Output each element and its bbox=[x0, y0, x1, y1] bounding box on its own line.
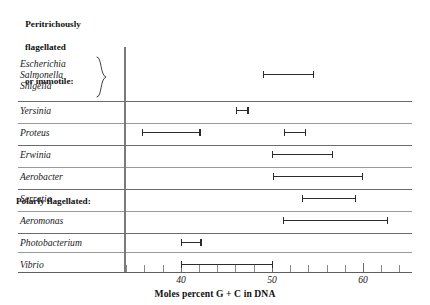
range-bar-aeromonas bbox=[283, 220, 387, 221]
range-bar-vibrio bbox=[181, 264, 272, 265]
range-cap-proteus-min bbox=[142, 129, 143, 136]
taxon-label-escherichia: Escherichia bbox=[20, 58, 66, 69]
vertical-axis-line bbox=[124, 47, 126, 273]
range-cap-proteus-min bbox=[284, 129, 285, 136]
axis-tick-major-60 bbox=[363, 263, 364, 272]
taxon-label-vibrio: Vibrio bbox=[20, 259, 44, 270]
axis-tick-minor bbox=[345, 265, 346, 272]
row-separator bbox=[18, 211, 412, 212]
gc-content-range-chart: Peritrichously flagellated or immotile: … bbox=[0, 0, 430, 305]
range-cap-vibrio-min bbox=[181, 261, 182, 268]
x-axis-title: Moles percent G + C in DNA bbox=[0, 288, 430, 299]
axis-tick-minor bbox=[235, 265, 236, 272]
range-cap-aerobacter-min bbox=[273, 173, 274, 180]
axis-tick-minor bbox=[381, 265, 382, 272]
axis-tick-major-50 bbox=[272, 263, 273, 272]
taxon-label-aerobacter: Aerobacter bbox=[20, 171, 63, 182]
axis-tick-minor bbox=[290, 265, 291, 272]
range-cap-serratia-min bbox=[302, 195, 303, 202]
axis-tick-major-40 bbox=[181, 263, 182, 272]
range-cap-proteus-max bbox=[305, 129, 306, 136]
range-cap-vibrio-max bbox=[272, 261, 273, 268]
range-cap-serratia-max bbox=[355, 195, 356, 202]
axis-tick-minor bbox=[163, 265, 164, 272]
x-axis-line bbox=[18, 272, 412, 273]
taxon-label-erwinia: Erwinia bbox=[20, 149, 51, 160]
axis-tick-label-50: 50 bbox=[267, 274, 277, 285]
axis-tick-minor bbox=[217, 265, 218, 272]
range-bar-yersinia bbox=[236, 110, 248, 111]
group-heading-peritrichous-line2: flagellated bbox=[16, 42, 81, 53]
range-cap-escherichia-min bbox=[263, 71, 264, 78]
taxon-label-photobacterium: Photobacterium bbox=[20, 237, 82, 248]
row-separator bbox=[18, 189, 412, 190]
range-bar-proteus bbox=[284, 132, 305, 133]
taxon-label-salmonella: Salmonella bbox=[20, 69, 63, 80]
axis-tick-minor bbox=[199, 265, 200, 272]
range-cap-aeromonas-max bbox=[387, 217, 388, 224]
axis-tick-minor bbox=[254, 265, 255, 272]
range-cap-erwinia-max bbox=[332, 151, 333, 158]
range-cap-yersinia-max bbox=[247, 107, 248, 114]
taxon-label-proteus: Proteus bbox=[20, 127, 50, 138]
range-cap-erwinia-min bbox=[272, 151, 273, 158]
row-separator bbox=[18, 252, 412, 253]
range-cap-photobacterium-max bbox=[200, 239, 201, 246]
axis-tick-minor bbox=[327, 265, 328, 272]
row-separator bbox=[18, 233, 412, 234]
axis-tick-minor bbox=[308, 265, 309, 272]
taxon-label-shigella: Shigella bbox=[20, 80, 51, 91]
range-cap-proteus-max bbox=[199, 129, 200, 136]
row-separator bbox=[18, 123, 412, 124]
range-bar-erwinia bbox=[272, 154, 332, 155]
taxon-label-serratia: Serratia bbox=[20, 193, 51, 204]
range-cap-aerobacter-max bbox=[362, 173, 363, 180]
axis-tick-label-60: 60 bbox=[358, 274, 368, 285]
group-heading-peritrichous-line1: Peritrichously bbox=[25, 19, 81, 29]
taxon-label-yersinia: Yersinia bbox=[20, 105, 51, 116]
axis-tick-label-40: 40 bbox=[176, 274, 186, 285]
axis-tick-minor bbox=[399, 265, 400, 272]
range-bar-aerobacter bbox=[273, 176, 362, 177]
range-bar-proteus bbox=[142, 132, 199, 133]
range-cap-photobacterium-min bbox=[181, 239, 182, 246]
row-separator bbox=[18, 167, 412, 168]
taxon-label-aeromonas: Aeromonas bbox=[20, 215, 63, 226]
range-cap-aeromonas-min bbox=[283, 217, 284, 224]
range-bar-serratia bbox=[302, 198, 355, 199]
group-brace-icon bbox=[96, 56, 108, 98]
axis-tick-minor bbox=[126, 265, 127, 272]
axis-tick-minor bbox=[144, 265, 145, 272]
range-bar-escherichia bbox=[263, 74, 313, 75]
range-bar-photobacterium bbox=[181, 242, 200, 243]
range-cap-escherichia-max bbox=[313, 71, 314, 78]
row-separator bbox=[18, 145, 412, 146]
range-cap-yersinia-min bbox=[236, 107, 237, 114]
